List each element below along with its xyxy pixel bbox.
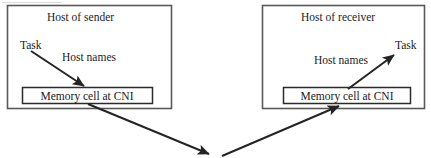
sender-host-title: Host of sender <box>47 12 114 24</box>
receiver-host-title: Host of receiver <box>301 12 375 24</box>
receiver-hostnames-label: Host names <box>314 55 368 67</box>
network-to-receiver-cell-arrow <box>222 106 339 156</box>
sender-memory-cell: Memory cell at CNI <box>23 88 151 103</box>
sender-task-label: Task <box>20 40 42 52</box>
sender-hostnames-label: Host names <box>62 52 116 64</box>
diagram-canvas: Host of sender Task Host names Memory ce… <box>0 0 431 158</box>
sender-memory-cell-label: Memory cell at CNI <box>41 90 134 102</box>
receiver-memory-cell-label: Memory cell at CNI <box>301 90 394 102</box>
receiver-memory-cell: Memory cell at CNI <box>284 88 410 103</box>
sender-cell-to-network-arrow <box>88 104 209 154</box>
receiver-task-label: Task <box>395 40 417 52</box>
diagram-vector-layer <box>0 0 431 158</box>
